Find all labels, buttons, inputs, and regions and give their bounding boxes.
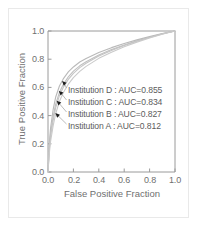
x-tick-label: 0.8 [138,175,162,185]
x-tick-label: 0.0 [36,175,60,185]
annotation-institution-c: Institution C : AUC=0.834 [68,97,162,107]
leader-line [59,103,67,112]
roc-figure: 1.0 0.8 0.6 0.4 0.2 0.0 0.0 0.2 0.4 0.6 … [0,0,198,228]
y-axis-label: True Positive Fraction [16,28,27,170]
y-axis-label-wrap: True Positive Fraction [16,28,28,170]
x-tick-label: 1.0 [163,175,187,185]
annotation-institution-b: Institution B : AUC=0.827 [68,109,162,119]
annotation-institution-d: Institution D : AUC=0.855 [68,85,162,95]
x-axis-label: False Positive Fraction [48,188,176,199]
leader-line [58,115,67,124]
x-tick-label: 0.4 [87,175,111,185]
annotation-institution-a: Institution A : AUC=0.812 [68,121,161,131]
x-tick-label: 0.6 [112,175,136,185]
x-tick-label: 0.2 [62,175,86,185]
